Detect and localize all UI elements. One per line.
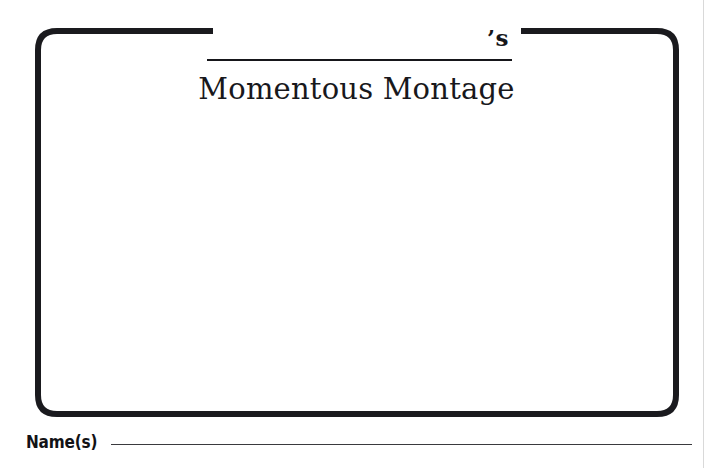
frame-top-rail-gap bbox=[213, 24, 518, 38]
frame-corner-bottom-left bbox=[38, 395, 57, 414]
title-name-blank-line[interactable] bbox=[207, 59, 512, 61]
page-title: Momentous Montage bbox=[0, 74, 713, 104]
name-input-line[interactable] bbox=[111, 444, 692, 445]
worksheet-page: ’s Momentous Montage Name(s) bbox=[0, 0, 713, 468]
title-possessive-suffix: ’s bbox=[487, 26, 509, 49]
frame-corner-bottom-right bbox=[657, 395, 676, 414]
name-field-label: Name(s) bbox=[26, 432, 97, 452]
title-block: ’s Momentous Montage bbox=[0, 0, 713, 130]
name-field-row: Name(s) bbox=[22, 432, 692, 460]
